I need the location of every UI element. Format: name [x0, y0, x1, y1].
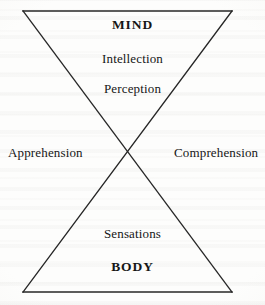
label-mind: MIND — [0, 18, 265, 32]
hourglass-diagram-figure: MIND Intellection Perception Apprehensio… — [0, 0, 265, 305]
label-comprehension: Comprehension — [174, 146, 258, 159]
label-body: BODY — [0, 260, 265, 274]
label-apprehension: Apprehension — [8, 146, 83, 159]
label-perception: Perception — [0, 82, 265, 95]
label-sensations: Sensations — [0, 227, 265, 240]
label-intellection: Intellection — [0, 52, 265, 65]
